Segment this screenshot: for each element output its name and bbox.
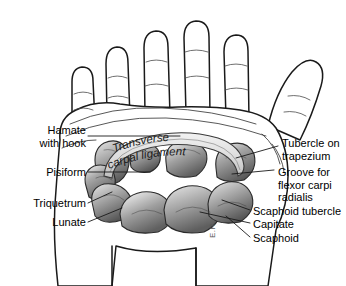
label-tubercle-on-trapezium-line2: trapezium <box>282 150 340 163</box>
finger-ring <box>184 21 210 116</box>
finger-fourth <box>224 35 249 120</box>
label-tubercle-on-trapezium-line1: Tubercle on <box>282 137 340 150</box>
label-hamate-with-hook: Hamate with hook <box>14 124 86 149</box>
label-tubercle-on-trapezium: Tubercle on trapezium <box>282 137 340 162</box>
label-pisiform: Pisiform <box>22 166 86 179</box>
label-lunate-line1: Lunate <box>32 216 86 229</box>
bone-scaphoid <box>208 182 253 223</box>
artist-signature: E.R. <box>208 220 217 238</box>
label-groove-line3: radialis <box>278 191 332 204</box>
label-pisiform-line1: Pisiform <box>22 166 86 179</box>
label-groove-for-flexor-carpi-radialis: Groove for flexor carpi radialis <box>278 166 332 204</box>
label-scaphoid-tubercle-line1: Scaphoid tubercle <box>253 205 341 218</box>
label-triquetrum-line1: Triquetrum <box>16 197 86 210</box>
label-lunate: Lunate <box>32 216 86 229</box>
finger-middle <box>144 31 170 116</box>
label-groove-line1: Groove for <box>278 166 332 179</box>
label-triquetrum: Triquetrum <box>16 197 86 210</box>
label-hamate-with-hook-line1: Hamate <box>14 124 86 137</box>
label-scaphoid-tubercle: Scaphoid tubercle <box>253 205 341 218</box>
label-capitate-line1: Capitate <box>253 218 294 231</box>
label-hamate-with-hook-line2: with hook <box>14 137 86 150</box>
label-scaphoid-line1: Scaphoid <box>253 232 299 245</box>
carpal-anatomy-figure: Transverse carpal ligament Hamate with h… <box>0 0 346 286</box>
label-capitate: Capitate <box>253 218 294 231</box>
label-groove-line2: flexor carpi <box>278 179 332 192</box>
label-scaphoid: Scaphoid <box>253 232 299 245</box>
